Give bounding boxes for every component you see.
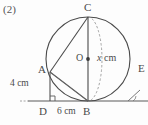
problem-number: (2) [3, 4, 16, 15]
point-label-E: E [138, 63, 145, 74]
measure-label-AD: 4 cm [10, 79, 29, 89]
point-label-D: D [39, 106, 47, 117]
point-label-B: B [83, 106, 90, 117]
point-label-A: A [38, 64, 46, 75]
angle-mark-ray [128, 90, 140, 101]
right-angle-mark-D [50, 96, 55, 101]
figure-panel: (2) C O x cm A 4 cm D 6 cm B E [0, 0, 148, 125]
angle-mark-arc [133, 96, 136, 101]
measure-label-DB: 6 cm [57, 107, 76, 117]
radius-measure-label: x cm [97, 53, 116, 63]
segment-CA [50, 17, 88, 72]
point-label-C: C [84, 2, 91, 13]
radius-unit-text: cm [104, 52, 116, 63]
center-point-dot [86, 57, 90, 61]
point-label-O: O [76, 53, 83, 63]
